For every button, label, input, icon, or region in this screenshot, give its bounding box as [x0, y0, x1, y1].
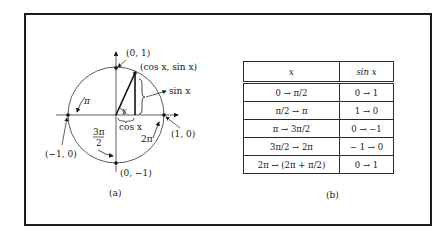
cell-x: π → 3π/2 [244, 120, 340, 138]
label-angle-x: x [122, 106, 127, 116]
table-row: 2π → (2π + π/2) 0 → 1 [244, 156, 394, 174]
label-0-neg1: (0, −1) [120, 168, 152, 178]
sin-brace [139, 79, 145, 114]
point-0-1 [114, 66, 118, 70]
label-3pi-num: 3π [93, 127, 105, 137]
point-neg1-0 [66, 113, 70, 117]
cell-x: 2π → (2π + π/2) [244, 156, 340, 174]
label-0-1: (0, 1) [126, 48, 150, 58]
cell-sin: 0 → 1 [340, 83, 394, 102]
sin-table: x sin x 0 → π/2 0 → 1 π/2 → π 1 → 0 π → … [243, 61, 394, 174]
point-cos-sin [133, 71, 137, 75]
point-0-neg1 [114, 161, 118, 165]
header-x: x [244, 62, 340, 83]
three-pi-half-arrow [98, 150, 113, 156]
label-pi: π [83, 96, 91, 106]
cell-sin: 0 → −1 [340, 120, 394, 138]
caption-a: (a) [109, 188, 121, 198]
caption-b: (b) [326, 190, 339, 200]
cell-sin: − 1 → 0 [340, 138, 394, 156]
label-3pi-den: 2 [96, 138, 102, 148]
label-neg1-0: (−1, 0) [45, 149, 77, 159]
label-cos: cos x [119, 122, 142, 132]
table-row: 0 → π/2 0 → 1 [244, 83, 394, 102]
label-2pi: 2π [141, 134, 153, 144]
label-1-0: (1, 0) [171, 129, 195, 139]
point-1-0 [162, 113, 166, 117]
table-row: 3π/2 → 2π − 1 → 0 [244, 138, 394, 156]
two-pi-arrow [153, 122, 159, 138]
cell-x: 0 → π/2 [244, 83, 340, 102]
cell-sin: 1 → 0 [340, 102, 394, 120]
table-row: π/2 → π 1 → 0 [244, 102, 394, 120]
sin-pointer [146, 91, 166, 97]
cell-x: 3π/2 → 2π [244, 138, 340, 156]
cell-x: π/2 → π [244, 102, 340, 120]
table-row: π → 3π/2 0 → −1 [244, 120, 394, 138]
label-cos-sin: (cos x, sin x) [140, 62, 197, 72]
header-sin-x: sin x [340, 62, 394, 83]
cell-sin: 0 → 1 [340, 156, 394, 174]
label-sin: sin x [169, 86, 190, 96]
